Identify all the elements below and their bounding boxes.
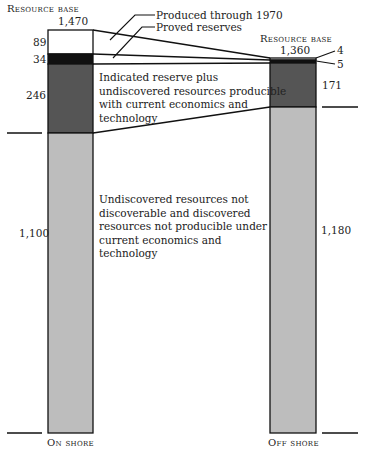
undiscovered-annotation: Undiscovered resources not discoverable … <box>99 193 267 261</box>
off-shore-category-label: Off shore <box>268 437 319 448</box>
on-shore-indicated-value: 246 <box>26 89 46 101</box>
on-shore-indicated-segment <box>48 64 93 133</box>
off-shore-total-title: Resource base <box>260 33 332 44</box>
on-shore-produced-segment <box>48 30 93 54</box>
on-shore-undiscovered-segment <box>48 133 93 433</box>
on-shore-undiscovered-value: 1,100 <box>19 227 49 239</box>
on-shore-proved-value: 34 <box>33 53 46 65</box>
indicated-annotation: Indicated reserve plus undiscovered reso… <box>99 71 286 125</box>
on-shore-category-label: On shore <box>47 437 94 448</box>
on-shore-total-title: Resource base <box>7 3 79 14</box>
on-shore-proved-segment <box>48 54 93 64</box>
on-shore-produced-value: 89 <box>33 36 46 48</box>
off-shore-undiscovered-value: 1,180 <box>321 224 351 236</box>
off-shore-total-value: 1,360 <box>280 44 310 56</box>
off-shore-indicated-value: 171 <box>322 79 342 91</box>
on-shore-total-value: 1,470 <box>58 15 88 27</box>
proved-annotation: Proved reserves <box>156 21 242 34</box>
off-shore-produced-value: 4 <box>337 44 344 56</box>
off-shore-proved-value: 5 <box>337 58 344 70</box>
off-shore-undiscovered-segment <box>270 107 316 433</box>
